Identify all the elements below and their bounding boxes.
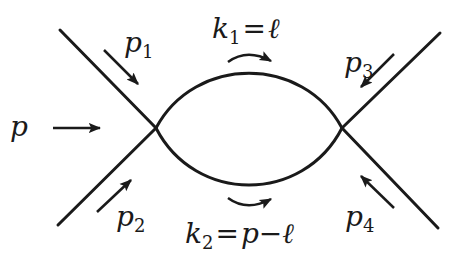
arrow-k1-icon — [228, 55, 271, 62]
feynman-diagram: p p1 p2 p3 p4 k1=ℓ k2=p−ℓ — [0, 0, 464, 255]
label-p: p — [10, 110, 28, 143]
internal-line-k1 — [156, 73, 342, 128]
internal-line-k2 — [156, 128, 342, 185]
label-p3: p3 — [344, 46, 373, 82]
label-p1: p1 — [124, 26, 153, 62]
label-k1: k1=ℓ — [212, 12, 280, 48]
label-k2: k2=p−ℓ — [185, 217, 294, 253]
arrow-k2-icon — [228, 198, 271, 205]
label-p2: p2 — [116, 200, 145, 236]
external-leg-p2 — [58, 128, 156, 225]
arrow-p4-icon — [361, 176, 394, 208]
label-p4: p4 — [345, 200, 374, 236]
